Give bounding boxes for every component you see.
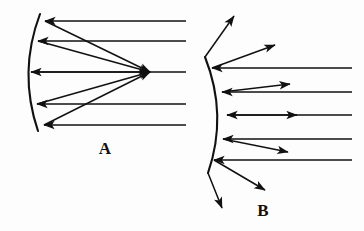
reflected-diverging-rays-b xyxy=(205,16,297,208)
reflected-ray-6 xyxy=(208,173,222,208)
panel-a-concave-mirror: A xyxy=(28,14,186,158)
incoming-parallel-rays-b xyxy=(212,68,352,160)
reflected-ray-1 xyxy=(38,41,150,72)
reflected-ray-1 xyxy=(212,45,275,68)
panel-label-b: B xyxy=(257,201,268,220)
reflected-ray-3 xyxy=(37,72,150,104)
reflected-ray-4 xyxy=(223,139,288,152)
convex-mirror-surface xyxy=(205,57,217,173)
figure-canvas: A B xyxy=(0,0,364,231)
reflected-ray-5 xyxy=(214,160,265,190)
reflected-ray-4 xyxy=(44,72,150,125)
panel-b-convex-mirror: B xyxy=(205,16,352,220)
reflected-ray-2 xyxy=(222,84,290,92)
reflected-converging-rays-a xyxy=(31,21,150,125)
panel-label-a: A xyxy=(99,139,112,158)
reflected-ray-0 xyxy=(45,21,150,72)
reflected-ray-0 xyxy=(205,16,234,57)
incoming-parallel-rays-a xyxy=(31,21,186,125)
physics-mirror-diagram: A B xyxy=(0,0,364,231)
